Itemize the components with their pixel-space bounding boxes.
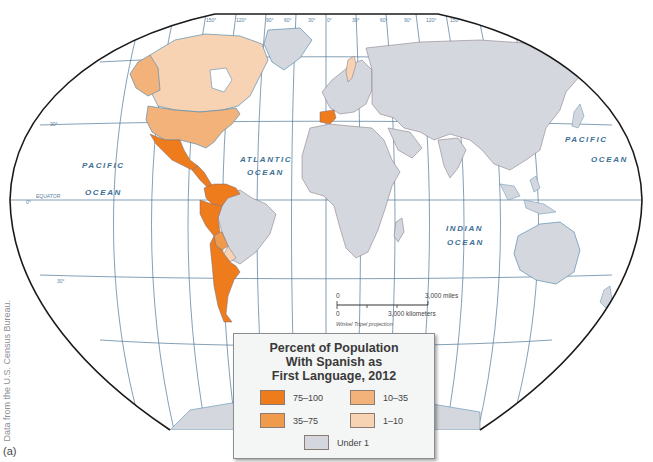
- svg-text:60°: 60°: [380, 17, 388, 23]
- swatch-35-75: [260, 413, 285, 428]
- svg-text:30°: 30°: [50, 121, 58, 127]
- svg-text:150°: 150°: [206, 17, 216, 23]
- swatch-1-10: [350, 413, 375, 428]
- svg-text:OCEAN: OCEAN: [447, 238, 484, 247]
- figure-label: (a): [3, 445, 16, 457]
- svg-text:OCEAN: OCEAN: [85, 188, 122, 197]
- legend-item-35-75: 35–75: [260, 413, 318, 428]
- svg-text:90°: 90°: [404, 17, 412, 23]
- svg-text:120°: 120°: [426, 17, 436, 23]
- legend-title: Percent of Population With Spanish as Fi…: [234, 341, 434, 383]
- svg-text:60°: 60°: [284, 17, 292, 23]
- svg-text:30°: 30°: [308, 17, 316, 23]
- legend-item-1-10: 1–10: [350, 413, 403, 428]
- svg-text:0: 0: [336, 292, 340, 299]
- svg-text:ATLANTIC: ATLANTIC: [239, 155, 292, 164]
- svg-text:Winkel Tripel projection: Winkel Tripel projection: [336, 321, 393, 327]
- legend-item-75-100: 75–100: [260, 390, 323, 405]
- svg-text:0: 0: [336, 310, 340, 317]
- svg-text:PACIFIC: PACIFIC: [82, 161, 125, 170]
- svg-text:30°: 30°: [57, 278, 65, 284]
- svg-text:OCEAN: OCEAN: [247, 168, 284, 177]
- legend-item-10-35: 10–35: [350, 390, 408, 405]
- svg-text:EQUATOR: EQUATOR: [36, 193, 61, 199]
- svg-text:3,000 kilometers: 3,000 kilometers: [388, 310, 436, 317]
- swatch-under-1: [304, 435, 329, 450]
- svg-text:0°: 0°: [327, 17, 332, 23]
- svg-text:120°: 120°: [236, 17, 246, 23]
- legend: Percent of Population With Spanish as Fi…: [233, 333, 435, 459]
- svg-text:0°: 0°: [26, 199, 31, 205]
- swatch-10-35: [350, 390, 375, 405]
- svg-text:30°: 30°: [352, 17, 360, 23]
- svg-text:INDIAN: INDIAN: [446, 224, 483, 233]
- legend-item-under-1: Under 1: [304, 435, 369, 450]
- svg-text:PACIFIC: PACIFIC: [565, 135, 608, 144]
- svg-text:3,000 miles: 3,000 miles: [425, 292, 459, 299]
- source-note: Data from the U.S. Census Bureau.: [2, 300, 12, 442]
- svg-text:90°: 90°: [266, 17, 274, 23]
- svg-text:OCEAN: OCEAN: [591, 155, 628, 164]
- swatch-75-100: [260, 390, 285, 405]
